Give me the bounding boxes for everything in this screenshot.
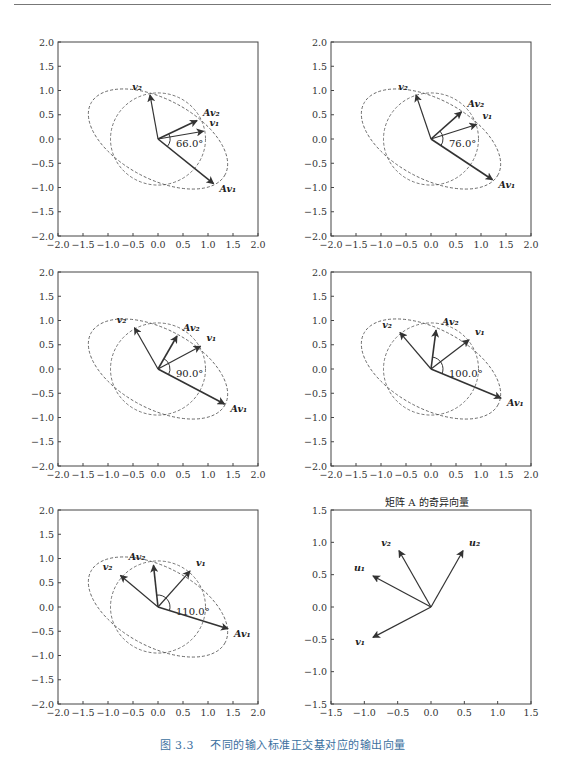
svg-text:−0.5: −0.5	[31, 158, 54, 169]
plot-bottom-right: −1.5−1.0−0.50.00.51.01.51.51.00.50.0−0.5…	[331, 510, 531, 708]
svg-text:1.0: 1.0	[473, 469, 488, 480]
svg-text:1.0: 1.0	[312, 537, 327, 548]
plot-bottom-left: −2.0−1.5−1.0−0.50.00.51.01.52.02.01.51.0…	[58, 510, 258, 708]
svg-text:−1.0: −1.0	[31, 412, 54, 423]
svg-text:−2.0: −2.0	[304, 461, 327, 472]
svg-text:v₁: v₁	[475, 326, 485, 337]
svg-text:0.5: 0.5	[312, 109, 327, 120]
svg-text:66.0°: 66.0°	[176, 138, 203, 149]
svg-text:−0.5: −0.5	[304, 388, 327, 399]
panel-title-singular-vectors: 矩阵 A 的奇异向量	[385, 494, 469, 509]
svg-text:1.0: 1.0	[312, 315, 327, 326]
svg-text:−0.5: −0.5	[31, 388, 54, 399]
svg-text:v₁: v₁	[355, 636, 365, 647]
svg-text:Av₁: Av₁	[219, 183, 237, 194]
svg-text:−0.5: −0.5	[121, 707, 144, 718]
svg-text:0.5: 0.5	[175, 239, 190, 250]
caption-text: 不同的输入标准正交基对应的输出向量	[210, 739, 406, 752]
svg-text:−2.0: −2.0	[304, 231, 327, 242]
svg-text:Av₁: Av₁	[233, 628, 251, 639]
svg-text:−1.5: −1.5	[304, 699, 327, 710]
svg-text:0.5: 0.5	[39, 577, 54, 588]
svg-text:−1.0: −1.0	[304, 412, 327, 423]
svg-text:1.5: 1.5	[39, 529, 54, 540]
svg-text:0.0: 0.0	[150, 239, 165, 250]
svg-text:−1.5: −1.5	[304, 206, 327, 217]
svg-text:0.0: 0.0	[312, 134, 327, 145]
svg-text:0.0: 0.0	[423, 469, 438, 480]
svg-text:Av₂: Av₂	[202, 107, 220, 118]
svg-text:2.0: 2.0	[250, 707, 265, 718]
svg-text:1.5: 1.5	[523, 707, 538, 718]
svg-text:0.0: 0.0	[150, 707, 165, 718]
plot-middle-left: −2.0−1.5−1.0−0.50.00.51.01.52.02.01.51.0…	[58, 272, 258, 470]
svg-text:v₂: v₂	[132, 81, 142, 92]
svg-text:2.0: 2.0	[39, 267, 54, 278]
svg-text:1.0: 1.0	[200, 707, 215, 718]
plot-top-left: −2.0−1.5−1.0−0.50.00.51.01.52.02.01.51.0…	[58, 42, 258, 240]
svg-text:110.0°: 110.0°	[176, 606, 210, 617]
svg-text:0.0: 0.0	[423, 239, 438, 250]
svg-text:1.5: 1.5	[312, 61, 327, 72]
svg-text:−1.0: −1.0	[369, 469, 392, 480]
svg-text:−1.0: −1.0	[96, 239, 119, 250]
svg-text:1.5: 1.5	[225, 469, 240, 480]
svg-text:0.0: 0.0	[423, 707, 438, 718]
svg-text:−2.0: −2.0	[31, 699, 54, 710]
svg-text:v₂: v₂	[382, 319, 392, 330]
svg-text:v₁: v₁	[483, 110, 493, 121]
svg-text:−1.5: −1.5	[71, 707, 94, 718]
svg-text:0.0: 0.0	[150, 469, 165, 480]
svg-text:1.5: 1.5	[39, 291, 54, 302]
svg-text:−1.5: −1.5	[344, 239, 367, 250]
svg-text:u₁: u₁	[354, 562, 365, 573]
svg-text:2.0: 2.0	[312, 267, 327, 278]
svg-text:0.0: 0.0	[39, 602, 54, 613]
svg-text:−0.5: −0.5	[394, 469, 417, 480]
svg-text:−0.5: −0.5	[121, 469, 144, 480]
plot-top-right: −2.0−1.5−1.0−0.50.00.51.01.52.02.01.51.0…	[331, 42, 531, 240]
svg-text:2.0: 2.0	[523, 239, 538, 250]
svg-text:1.0: 1.0	[200, 469, 215, 480]
svg-text:v₂: v₂	[398, 81, 408, 92]
svg-text:2.0: 2.0	[250, 239, 265, 250]
svg-text:−0.5: −0.5	[121, 239, 144, 250]
header-rule	[14, 4, 276, 5]
svg-text:−1.5: −1.5	[71, 239, 94, 250]
svg-text:−1.5: −1.5	[304, 436, 327, 447]
svg-text:1.0: 1.0	[39, 315, 54, 326]
svg-text:1.0: 1.0	[312, 85, 327, 96]
svg-text:−1.0: −1.0	[96, 469, 119, 480]
svg-text:−1.0: −1.0	[304, 182, 327, 193]
svg-text:0.5: 0.5	[448, 239, 463, 250]
svg-text:−1.0: −1.0	[369, 239, 392, 250]
svg-text:2.0: 2.0	[39, 37, 54, 48]
svg-text:−1.5: −1.5	[31, 206, 54, 217]
svg-text:v₁: v₁	[207, 332, 217, 343]
svg-text:0.5: 0.5	[312, 339, 327, 350]
figure-caption: 图 3.3 不同的输入标准正交基对应的输出向量	[0, 736, 565, 752]
svg-text:1.5: 1.5	[225, 239, 240, 250]
svg-text:Av₂: Av₂	[128, 551, 146, 562]
svg-text:Av₂: Av₂	[182, 322, 200, 333]
svg-text:2.0: 2.0	[312, 37, 327, 48]
svg-text:−1.5: −1.5	[31, 436, 54, 447]
svg-text:0.5: 0.5	[175, 469, 190, 480]
svg-text:v₂: v₂	[103, 561, 113, 572]
svg-text:1.0: 1.0	[39, 85, 54, 96]
svg-text:76.0°: 76.0°	[449, 138, 476, 149]
svg-text:−1.0: −1.0	[31, 650, 54, 661]
svg-text:v₁: v₁	[210, 117, 220, 128]
header-rule-right	[276, 4, 551, 5]
svg-text:1.5: 1.5	[225, 707, 240, 718]
svg-text:Av₂: Av₂	[441, 316, 459, 327]
svg-text:1.0: 1.0	[39, 553, 54, 564]
svg-text:Av₂: Av₂	[467, 98, 485, 109]
svg-text:−1.0: −1.0	[304, 666, 327, 677]
svg-text:Av₁: Av₁	[230, 403, 248, 414]
svg-text:v₁: v₁	[196, 557, 206, 568]
svg-text:−1.0: −1.0	[353, 707, 376, 718]
svg-text:1.5: 1.5	[498, 469, 513, 480]
svg-text:2.0: 2.0	[523, 469, 538, 480]
svg-text:0.5: 0.5	[175, 707, 190, 718]
